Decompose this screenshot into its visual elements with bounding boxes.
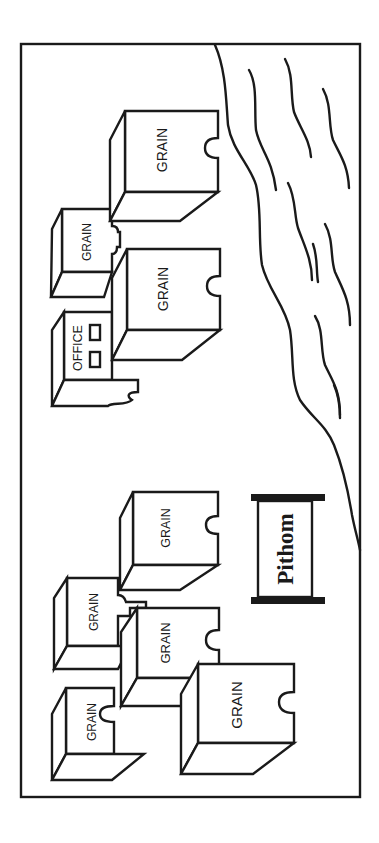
granary-f-label: GRAIN [158,622,173,663]
granary-b-label: GRAIN [80,223,94,261]
pithom-storage-city-illustration: GRAIN OFFICE GRAIN GRAIN Pithom GRAIN [0,0,379,843]
office-window [90,325,100,340]
office-label: OFFICE [71,325,85,371]
office-window [90,352,100,367]
granary-d-label: GRAIN [159,508,173,548]
wave-line [249,70,276,190]
sign-label: Pithom [273,513,298,585]
wave-line [325,224,350,325]
river [215,45,360,550]
wave-line [323,89,349,188]
wave-line [315,316,340,415]
wave-line [285,59,311,157]
granary-a-label: GRAIN [154,128,170,172]
granary-h[interactable]: GRAIN [181,664,294,774]
wave-line [313,244,318,282]
pithom-sign: Pithom [251,494,325,604]
granary-h-label: GRAIN [228,681,245,729]
granary-d[interactable]: GRAIN [120,492,218,590]
granary-g-label: GRAIN [85,703,99,741]
river-bank-line [215,45,360,550]
granary-e-label: GRAIN [87,593,101,631]
granary-c-label: GRAIN [155,267,171,311]
wave-line [288,183,312,280]
granary-c[interactable]: GRAIN [112,249,220,360]
granary-a[interactable]: GRAIN [110,111,218,221]
wave-line [334,385,340,418]
